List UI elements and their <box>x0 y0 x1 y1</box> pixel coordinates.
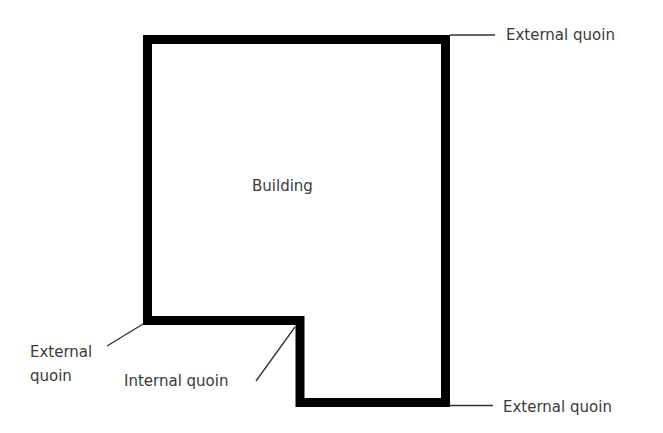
leader-line-bottom-left <box>107 324 143 346</box>
building-outline <box>148 40 446 403</box>
label-external-quoin-bottom-right: External quoin <box>503 398 612 416</box>
building-label: Building <box>252 177 313 195</box>
leader-line-internal <box>256 327 295 381</box>
label-external-quoin-bottom-left-line2: quoin <box>30 367 72 385</box>
quoin-diagram: Building External quoin External quoin I… <box>0 0 663 433</box>
label-external-quoin-bottom-left-line1: External <box>30 343 92 361</box>
label-internal-quoin: Internal quoin <box>124 372 228 390</box>
label-external-quoin-top-right: External quoin <box>506 26 615 44</box>
